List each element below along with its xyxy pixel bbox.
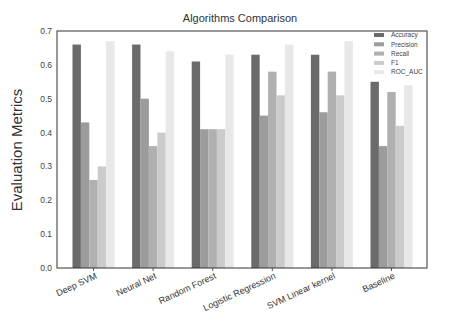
y-tick-label: 0.0 <box>40 263 52 273</box>
bar-recall <box>387 92 395 268</box>
bar-accuracy <box>251 55 259 268</box>
bar-f1 <box>277 95 285 268</box>
y-tick-label: 0.6 <box>40 60 52 70</box>
y-tick-label: 0.2 <box>40 195 52 205</box>
legend: AccuracyPrecisionRecallF1ROC_AUC <box>374 31 423 76</box>
bar-f1 <box>157 133 165 268</box>
bar-recall <box>149 146 157 268</box>
x-tick-label: SVM Linear kernel <box>265 271 336 311</box>
x-axis-ticks: Deep SVMNeural NetRandom ForestLogistic … <box>55 268 397 313</box>
y-axis-label: Evaluation Metrics <box>8 89 25 212</box>
x-tick-label: Deep SVM <box>55 271 99 298</box>
legend-label: Precision <box>391 41 418 48</box>
bar-f1 <box>217 129 225 268</box>
bar-precision <box>81 122 89 268</box>
bar-precision <box>260 116 268 268</box>
legend-swatch <box>374 42 384 46</box>
y-tick-label: 0.3 <box>40 161 52 171</box>
legend-swatch <box>374 33 384 37</box>
bar-accuracy <box>371 82 379 268</box>
legend-swatch <box>374 61 384 65</box>
bar-chart: Algorithms Comparison 0.00.10.20.30.40.5… <box>0 0 449 334</box>
y-tick-label: 0.4 <box>40 128 52 138</box>
legend-swatch <box>374 52 384 56</box>
bar-roc-auc <box>225 55 233 268</box>
bars-group <box>73 41 413 268</box>
bar-recall <box>328 72 336 268</box>
y-tick-label: 0.7 <box>40 26 52 36</box>
bar-precision <box>379 146 387 268</box>
bar-accuracy <box>192 61 200 268</box>
legend-label: Recall <box>391 50 410 57</box>
bar-roc-auc <box>285 45 293 268</box>
bar-roc-auc <box>404 85 412 268</box>
x-tick-label: Neural Net <box>115 271 159 298</box>
bar-precision <box>200 129 208 268</box>
bar-recall <box>89 180 97 268</box>
bar-roc-auc <box>345 41 353 268</box>
bar-roc-auc <box>106 41 114 268</box>
bar-accuracy <box>132 45 140 268</box>
bar-precision <box>319 112 327 268</box>
y-tick-label: 0.5 <box>40 94 52 104</box>
legend-swatch <box>374 70 384 74</box>
bar-precision <box>141 99 149 268</box>
bar-f1 <box>396 126 404 268</box>
bar-roc-auc <box>166 51 174 268</box>
legend-label: F1 <box>391 59 399 66</box>
chart-title: Algorithms Comparison <box>183 12 297 24</box>
bar-recall <box>209 129 217 268</box>
x-tick-label: Baseline <box>361 271 397 295</box>
legend-label: Accuracy <box>391 31 418 39</box>
bar-accuracy <box>73 45 81 268</box>
y-tick-label: 0.1 <box>40 229 52 239</box>
bar-f1 <box>98 166 106 268</box>
legend-label: ROC_AUC <box>391 68 423 76</box>
bar-f1 <box>336 95 344 268</box>
bar-recall <box>268 72 276 268</box>
y-axis-ticks: 0.00.10.20.30.40.50.60.7 <box>40 26 52 273</box>
bar-accuracy <box>311 55 319 268</box>
